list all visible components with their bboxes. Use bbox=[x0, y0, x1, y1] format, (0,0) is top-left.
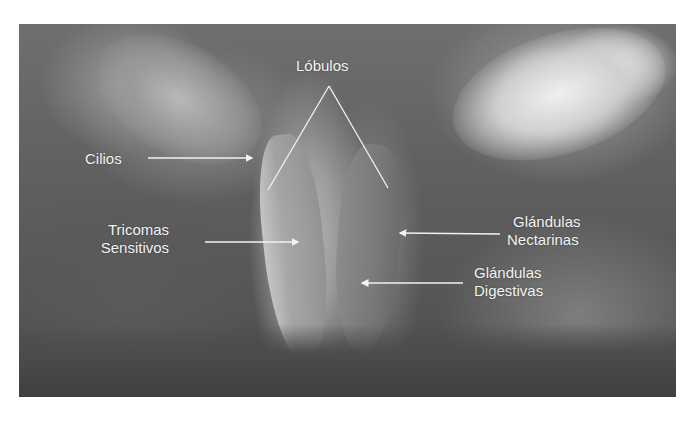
label-glandulas-digestivas: Glándulas Digestivas bbox=[474, 264, 543, 300]
lobulos-line-left bbox=[268, 86, 329, 190]
label-cilios-text: Cilios bbox=[85, 150, 122, 167]
label-tricomas-line1: Tricomas bbox=[100, 221, 169, 239]
label-digestivas-line2: Digestivas bbox=[474, 282, 543, 300]
label-tricomas-line2: Sensitivos bbox=[100, 239, 169, 257]
label-tricomas-sensitivos: Tricomas Sensitivos bbox=[100, 221, 169, 257]
nectarinas-arrow bbox=[400, 233, 500, 234]
label-cilios: Cilios bbox=[85, 150, 122, 168]
label-lobulos: Lóbulos bbox=[296, 57, 349, 75]
label-glandulas-nectarinas: Glándulas Nectarinas bbox=[507, 213, 581, 249]
label-nectarinas-line1: Glándulas bbox=[507, 213, 581, 231]
lobulos-line-right bbox=[329, 86, 388, 188]
label-nectarinas-line2: Nectarinas bbox=[507, 231, 581, 249]
label-lobulos-text: Lóbulos bbox=[296, 57, 349, 74]
annotation-lines bbox=[0, 0, 698, 422]
label-digestivas-line1: Glándulas bbox=[474, 264, 543, 282]
